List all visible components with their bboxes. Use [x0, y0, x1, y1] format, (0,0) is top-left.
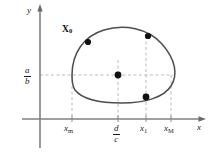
orbit-curve — [72, 27, 175, 103]
y-axis-label: y — [27, 6, 31, 15]
fraction-denominator-b: b — [24, 77, 31, 86]
phase-plane-figure: y x a b xm d c x1 xM X0 — [0, 0, 215, 152]
fraction-numerator-d: d — [113, 124, 120, 133]
y-axis-arrow — [37, 4, 42, 12]
point-x0 — [85, 39, 91, 45]
x-tick-label-x1: x1 — [140, 124, 147, 133]
point-equilibrium — [115, 72, 122, 79]
x-tick-sub-xM: M — [168, 127, 174, 134]
x-tick-label-xM: xM — [164, 124, 174, 133]
x-tick-sub-xm: m — [68, 127, 73, 134]
fraction-denominator-c: c — [113, 135, 120, 144]
x-tick-label-xm: xm — [64, 124, 73, 133]
plot-canvas — [0, 0, 215, 152]
x-axis-label: x — [197, 123, 201, 132]
point-lower-right — [143, 94, 150, 101]
point-label-base-x0: X — [62, 24, 69, 34]
fraction-numerator-a: a — [24, 66, 31, 75]
x-tick-label-dc: d c — [113, 124, 120, 145]
point-upper-right — [145, 33, 151, 39]
x-tick-sub-x1: 1 — [144, 127, 147, 134]
y-tick-label-ab: a b — [24, 66, 31, 87]
point-label-sub-x0: 0 — [69, 27, 72, 34]
point-label-x0: X0 — [62, 25, 72, 35]
x-axis-arrow — [199, 116, 207, 121]
